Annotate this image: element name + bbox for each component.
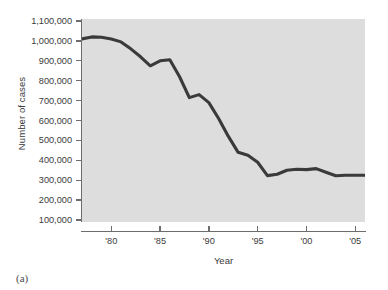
x-axis-line — [81, 231, 366, 232]
y-axis-tick-mark — [76, 199, 82, 200]
y-axis-tick-mark — [76, 120, 82, 121]
x-axis-tick-label: '95 — [252, 236, 264, 246]
y-axis-tick-mark — [76, 80, 82, 81]
y-axis-tick-label-group: 1,100,0001,000,000900,000800,000700,0006… — [0, 0, 76, 290]
x-axis-tick-mark — [111, 226, 112, 232]
y-axis-tick-label: 200,000 — [39, 195, 72, 205]
x-axis-tick-mark — [159, 226, 160, 232]
y-axis-tick-label: 700,000 — [39, 96, 72, 106]
y-axis-tick-label: 400,000 — [39, 155, 72, 165]
figure-container: Number of cases 1,100,0001,000,000900,00… — [0, 0, 388, 290]
y-axis-tick-label: 300,000 — [39, 175, 72, 185]
y-axis-tick-mark — [76, 40, 82, 41]
chart-line-svg — [82, 19, 365, 222]
y-axis-tick-mark — [76, 60, 82, 61]
data-series-line — [82, 37, 365, 176]
y-axis-tick-mark — [76, 20, 82, 21]
x-axis-tick-label: '05 — [349, 236, 361, 246]
y-axis-tick-label: 1,000,000 — [31, 36, 72, 46]
x-axis-tick-mark — [257, 226, 258, 232]
y-axis-tick-label: 900,000 — [39, 56, 72, 66]
y-axis-tick-mark — [76, 100, 82, 101]
y-axis-tick-label: 100,000 — [39, 215, 72, 225]
y-axis-tick-label: 600,000 — [39, 116, 72, 126]
y-axis-tick-label: 800,000 — [39, 76, 72, 86]
y-axis-tick-mark — [76, 160, 82, 161]
y-axis-tick-label: 1,100,000 — [31, 16, 72, 26]
x-axis-tick-label: '90 — [203, 236, 215, 246]
y-axis-tick-mark — [76, 140, 82, 141]
x-axis-tick-mark — [208, 226, 209, 232]
x-axis-tick-mark — [306, 226, 307, 232]
x-axis-tick-label: '85 — [154, 236, 166, 246]
y-axis-tick-mark — [76, 180, 82, 181]
x-axis-tick-mark — [355, 226, 356, 232]
plot-area — [82, 19, 365, 222]
x-axis-tick-label: '00 — [300, 236, 312, 246]
y-axis-tick-mark — [76, 219, 82, 220]
x-axis-tick-label: '80 — [105, 236, 117, 246]
figure-caption-label: (a) — [16, 272, 28, 284]
y-axis-tick-label: 500,000 — [39, 135, 72, 145]
x-axis-title: Year — [82, 255, 365, 266]
